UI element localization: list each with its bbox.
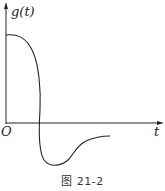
y-axis-arrow-icon — [4, 2, 8, 9]
graph-figure: g(t) O t — [0, 0, 165, 191]
y-axis-label: g(t) — [11, 4, 35, 19]
figure-caption: 图 21-2 — [0, 172, 165, 188]
origin-label: O — [1, 124, 12, 139]
x-axis-label: t — [154, 124, 160, 139]
g-curve — [6, 35, 110, 165]
